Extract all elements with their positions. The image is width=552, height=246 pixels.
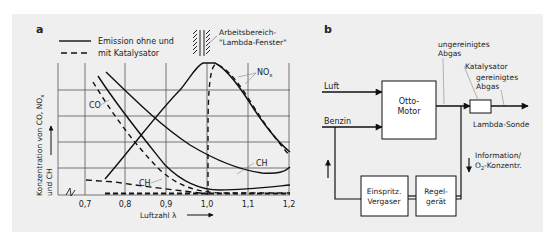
- katalysator-label: Katalysator: [465, 62, 508, 71]
- x-tick-labels: 0,7 0,8 0,9 1,0 1,1 1,2: [79, 200, 296, 209]
- curve-co-dashed: [93, 82, 290, 193]
- input-benzin-label: Benzin: [324, 117, 351, 126]
- legend-solid-label: Emission ohne und: [98, 37, 174, 46]
- raw-exhaust-label-1: ungereinigtes: [438, 40, 490, 49]
- clean-exhaust-label-1: gereinigtes: [476, 73, 518, 82]
- einspritz-vergaser-box: [361, 176, 408, 216]
- raw-exhaust-label-2: Abgas: [438, 49, 461, 58]
- label-ch-lower: CH: [139, 179, 151, 188]
- clean-exhaust-label-2: Abgas: [476, 82, 499, 91]
- info-label-1: Information/: [475, 151, 521, 160]
- lambda-window-label-2: "Lambda-Fenster": [219, 38, 287, 47]
- curve-nox-dashed: [208, 64, 290, 195]
- curves: [86, 63, 290, 195]
- label-ch-upper: CH: [256, 159, 268, 168]
- regelgeraet-box: [416, 176, 456, 216]
- panel-b-label: b: [324, 23, 332, 36]
- svg-text:0,8: 0,8: [119, 200, 132, 209]
- label-co: CO: [89, 101, 101, 110]
- x-axis-label: Luftzahl λ: [140, 211, 177, 220]
- lambda-sonde-label: Lambda-Sonde: [473, 120, 530, 129]
- injector-label-1: Einspritz.: [367, 187, 402, 196]
- katalysator-box: [470, 100, 491, 113]
- otto-motor-label-2: Motor: [397, 107, 421, 116]
- info-label-2: O2-Konzentr.: [475, 161, 522, 171]
- controller-label-1: Regel-: [424, 187, 448, 196]
- input-luft-label: Luft: [324, 82, 339, 91]
- label-nox: NOx: [257, 68, 273, 78]
- otto-motor-label-1: Otto-: [399, 97, 420, 106]
- lambda-window-icon: [193, 30, 217, 56]
- figure: a Emission ohne und mit Katalysator Arbe…: [0, 0, 552, 246]
- controller-label-2: gerät: [426, 197, 446, 206]
- svg-text:und CH: und CH: [45, 168, 54, 196]
- panel-b: b Luft Benzin Otto- Motor ungereinigtes …: [322, 23, 530, 216]
- svg-text:Konzentration von CO, NOx: Konzentration von CO, NOx: [35, 94, 45, 196]
- svg-text:1,1: 1,1: [242, 200, 255, 209]
- svg-text:0,7: 0,7: [79, 200, 92, 209]
- svg-text:0,9: 0,9: [160, 200, 173, 209]
- svg-text:1,0: 1,0: [201, 200, 214, 209]
- svg-text:1,2: 1,2: [283, 200, 296, 209]
- panel-a: a Emission ohne und mit Katalysator Arbe…: [35, 23, 295, 220]
- legend-dashed-label: mit Katalysator: [98, 49, 160, 58]
- lambda-window-label-1: Arbeitsbereich-: [219, 28, 276, 37]
- panel-a-label: a: [36, 23, 43, 36]
- injector-label-2: Vergaser: [367, 197, 401, 206]
